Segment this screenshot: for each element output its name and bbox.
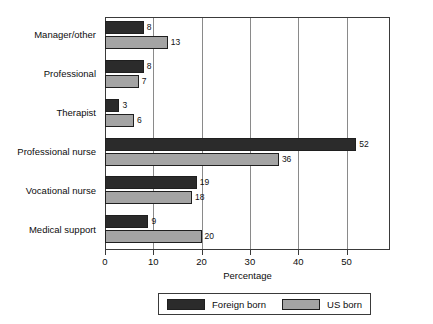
bar-group: 87: [105, 56, 390, 95]
y-axis-tick-label: Manager/other: [34, 29, 96, 40]
bar-group: 1918: [105, 172, 390, 211]
bar-value-label: 36: [282, 153, 291, 166]
x-axis-tick-mark: [153, 250, 154, 255]
bar-us-born: [105, 191, 192, 204]
y-axis-tick-label: Vocational nurse: [26, 185, 96, 196]
bar-value-label: 18: [195, 191, 204, 204]
bars-container: 813873652361918920: [105, 17, 390, 250]
legend-label: US born: [327, 299, 362, 310]
x-axis-tick-label: 0: [102, 256, 107, 267]
bar-value-label: 3: [122, 99, 127, 112]
y-axis-category-labels: Manager/otherProfessionalTherapistProfes…: [0, 17, 100, 250]
x-axis-tick-mark: [298, 250, 299, 255]
x-axis-tick-mark: [105, 250, 106, 255]
legend-label: Foreign born: [212, 299, 266, 310]
bar-group: 920: [105, 211, 390, 250]
bar-group: 5236: [105, 134, 390, 173]
bar-foreign-born: [105, 215, 148, 228]
bar-value-label: 13: [171, 36, 180, 49]
bar-value-label: 20: [205, 230, 214, 243]
legend-swatch-us-born: [282, 299, 320, 310]
bar-us-born: [105, 114, 134, 127]
y-axis-tick-label: Professional: [44, 68, 96, 79]
bar-foreign-born: [105, 60, 144, 73]
x-axis-tick-label: 10: [148, 256, 159, 267]
bar-group: 813: [105, 17, 390, 56]
x-axis-tick-mark: [202, 250, 203, 255]
bar-foreign-born: [105, 138, 356, 151]
bar-value-label: 6: [137, 114, 142, 127]
y-axis-tick-label: Therapist: [56, 107, 96, 118]
bar-group: 36: [105, 95, 390, 134]
bar-us-born: [105, 230, 202, 243]
x-axis-tick-label: 30: [245, 256, 256, 267]
legend-entry: Foreign born: [167, 299, 266, 310]
x-axis-tick-mark: [250, 250, 251, 255]
x-axis-tick-label: 40: [293, 256, 304, 267]
x-axis-tick-mark: [347, 250, 348, 255]
bar-value-label: 9: [151, 215, 156, 228]
bar-value-label: 19: [200, 176, 209, 189]
x-axis-title: Percentage: [105, 270, 390, 281]
bar-us-born: [105, 153, 279, 166]
bar-value-label: 7: [142, 75, 147, 88]
bar-foreign-born: [105, 176, 197, 189]
y-axis-tick-label: Professional nurse: [17, 146, 96, 157]
bar-value-label: 8: [147, 21, 152, 34]
bar-us-born: [105, 75, 139, 88]
x-axis-tick-label: 50: [341, 256, 352, 267]
legend-entry: US born: [282, 299, 362, 310]
bar-us-born: [105, 36, 168, 49]
bar-value-label: 8: [147, 60, 152, 73]
y-axis-tick-label: Medical support: [29, 224, 96, 235]
legend-swatch-foreign-born: [167, 299, 205, 310]
chart-legend: Foreign bornUS born: [158, 293, 371, 315]
bar-value-label: 52: [359, 138, 368, 151]
x-axis-tick-label: 20: [196, 256, 207, 267]
bar-foreign-born: [105, 99, 119, 112]
bar-foreign-born: [105, 21, 144, 34]
horizontal-bar-chart: Manager/otherProfessionalTherapistProfes…: [0, 0, 433, 324]
